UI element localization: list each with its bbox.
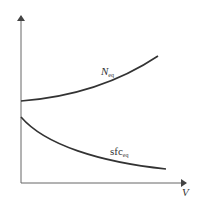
x-axis-label: V [182,186,190,198]
sfc-eq-label: sfceq [110,145,129,158]
n-eq-label: Neq [100,65,114,78]
sfc-eq-curve [21,117,166,169]
n-eq-curve [21,56,158,101]
chart: Neq sfceq V [0,0,204,202]
